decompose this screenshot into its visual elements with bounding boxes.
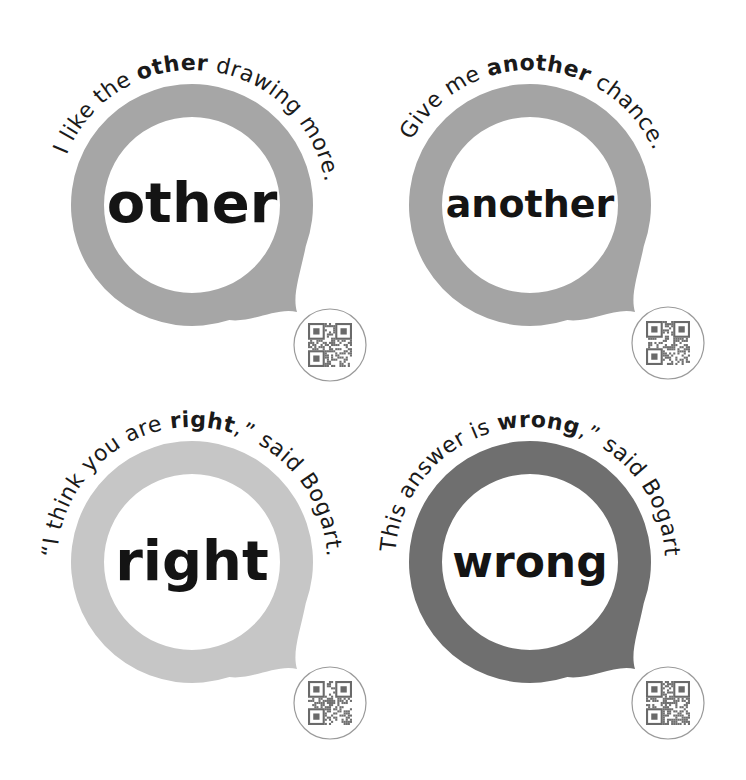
sentence-keyword: other bbox=[133, 50, 210, 85]
sentence-keyword: right bbox=[168, 407, 238, 438]
speech-bubble-graphic: “I think you are right,” said Bogart. ri… bbox=[0, 390, 373, 780]
vocabulary-word: wrong bbox=[452, 536, 607, 587]
sentence-keyword: another bbox=[484, 50, 595, 87]
vocabulary-word: another bbox=[446, 182, 615, 226]
qr-code-icon[interactable] bbox=[632, 307, 704, 379]
word-card-wrong: “This answer is wrong,” said Bogart. wro… bbox=[373, 390, 746, 780]
speech-bubble-graphic: I like the other drawing more. other bbox=[0, 0, 373, 390]
word-card-other: I like the other drawing more. other bbox=[0, 0, 373, 390]
word-card-another: Give me another chance. another bbox=[373, 0, 746, 390]
vocabulary-word: right bbox=[115, 528, 269, 593]
speech-bubble-graphic: “This answer is wrong,” said Bogart. wro… bbox=[373, 390, 746, 780]
qr-code-icon[interactable] bbox=[294, 667, 366, 739]
word-card-right: “I think you are right,” said Bogart. ri… bbox=[0, 390, 373, 780]
vocabulary-word: other bbox=[107, 170, 278, 235]
qr-code-icon[interactable] bbox=[632, 667, 704, 739]
qr-code-icon[interactable] bbox=[294, 309, 366, 381]
sentence-keyword: wrong bbox=[495, 407, 583, 440]
speech-bubble-graphic: Give me another chance. another bbox=[373, 0, 746, 390]
